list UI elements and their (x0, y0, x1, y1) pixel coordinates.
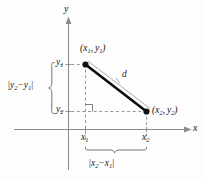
y-tick-1-sub: 1 (60, 61, 63, 68)
y-axis-label: y (64, 4, 68, 14)
vertical-bar-close: | (31, 80, 33, 90)
distance-leader (88, 61, 150, 109)
point-2-comma: , (163, 105, 165, 115)
distance-formula-figure: y x (x1, y1) (x2, y2) d y1 y2 x1 x2 |y2−… (0, 0, 203, 181)
vertical-brace (49, 63, 55, 114)
point-2-paren-close: ) (174, 105, 177, 115)
distance-segment (86, 65, 147, 112)
x-axis (14, 127, 192, 133)
point-2-label: (x2, y2) (152, 106, 178, 116)
x-tick-2-sub: 2 (146, 136, 149, 143)
x-tick-label-1: x1 (81, 133, 88, 143)
vertical-distance-label: |y2−y1| (8, 81, 33, 91)
x-tick-label-2: x2 (142, 133, 149, 143)
y-axis (66, 17, 72, 171)
horizontal-distance-label: |x2−x1| (89, 159, 114, 169)
point-1-marker (82, 61, 88, 67)
horizontal-brace (86, 147, 147, 153)
right-angle-marker (86, 105, 93, 112)
y-tick-2-sub: 2 (60, 108, 63, 115)
x-tick-1-sub: 1 (85, 136, 88, 143)
point-1-comma: , (91, 43, 93, 53)
x-axis-label: x (193, 123, 197, 133)
distance-label: d (122, 70, 127, 80)
point-1-paren-close: ) (102, 43, 105, 53)
point-2-marker (143, 108, 149, 114)
y-tick-label-2: y2 (56, 105, 63, 115)
y-tick-label-1: y1 (56, 58, 63, 68)
horizontal-bar-close: | (112, 158, 114, 168)
point-1-label: (x1, y1) (80, 44, 106, 54)
